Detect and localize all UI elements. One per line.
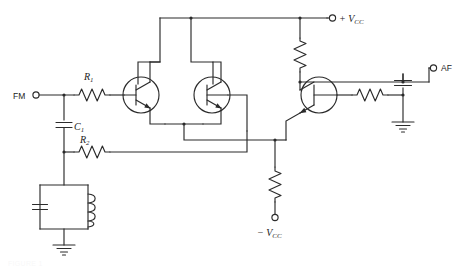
lc-tank-circuit xyxy=(33,185,96,255)
circuit-schematic: + VCC FM R1 C1 xyxy=(0,0,461,271)
tail-resistor-branch: − VCC xyxy=(257,138,282,240)
vcc-positive-label: + VCC xyxy=(339,13,364,26)
capacitor-c1-label: C1 xyxy=(74,121,84,133)
transistor-q2-collector-lead xyxy=(207,82,221,90)
fm-terminal-ring[interactable] xyxy=(33,92,39,98)
ground-symbol-af xyxy=(392,122,414,132)
resistor-r2-body xyxy=(74,146,110,158)
node-dot-rail-right xyxy=(298,16,301,19)
transistor-q1-emitter-ext xyxy=(150,108,165,124)
resistor-af-series xyxy=(352,89,388,101)
node-dot-af-rail xyxy=(401,80,404,83)
schematic-screen: + VCC FM R1 C1 xyxy=(0,0,461,271)
q1-collector-wire xyxy=(138,18,160,84)
transistor-q3-emitter-arrow xyxy=(300,108,307,113)
af-output-network: AF xyxy=(352,63,452,132)
resistor-r1-body xyxy=(74,89,110,101)
q2-collector-wire xyxy=(191,18,213,84)
ground-symbol-tank xyxy=(53,245,75,255)
transistor-q3 xyxy=(286,77,352,140)
resistor-tail xyxy=(269,167,281,202)
resistor-collector-load-body xyxy=(294,38,306,72)
inductor-tank xyxy=(88,194,95,227)
transistor-q2-emitter-ext xyxy=(203,108,221,124)
collector-load-resistor xyxy=(294,38,306,82)
resistor-r1: R1 xyxy=(74,71,110,101)
vcc-terminal-ring xyxy=(329,15,335,21)
figure-caption: FIGURE 1 xyxy=(8,260,43,267)
resistor-r2-label: R2 xyxy=(79,134,90,146)
diffpair-emitter-junction xyxy=(165,122,275,140)
node-dot-rail-mid xyxy=(189,16,192,19)
terminal-vcc-positive[interactable]: + VCC xyxy=(327,13,364,26)
vcc-negative-label: − VCC xyxy=(257,227,282,240)
r2-branch: R2 xyxy=(62,131,247,185)
transistor-q2-base-feed xyxy=(228,95,247,131)
inductor-tank-coils xyxy=(88,194,95,227)
af-terminal-ring[interactable] xyxy=(430,65,436,71)
fm-input-label: FM xyxy=(13,91,25,101)
resistor-tail-body xyxy=(269,167,281,202)
resistor-r1-label: R1 xyxy=(83,71,94,83)
supply-rail-positive xyxy=(138,16,327,84)
r2-to-q2-base-wire xyxy=(110,131,247,152)
node-dot-diffpair-emitter xyxy=(182,122,185,125)
transistor-q2 xyxy=(194,62,247,131)
diffpair-tail-wire xyxy=(184,124,275,140)
vcc-negative-terminal-ring[interactable] xyxy=(272,214,278,220)
transistor-q3-emitter-ext xyxy=(286,113,300,140)
resistor-af-series-body xyxy=(352,89,388,101)
af-output-label: AF xyxy=(441,63,452,73)
fm-input-branch: FM R1 xyxy=(13,71,124,120)
transistor-q1 xyxy=(123,62,165,124)
resistor-r2: R2 xyxy=(74,134,110,158)
